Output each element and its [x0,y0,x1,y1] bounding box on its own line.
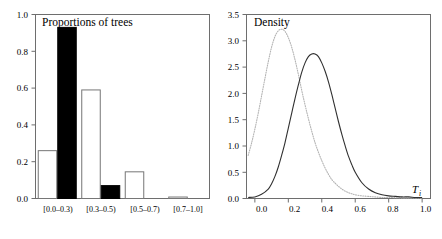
density-xtick-0-0: 0.0 [256,204,268,214]
bar-group-2 [82,90,120,199]
density-plot-frame [247,15,431,199]
bar-group-3 [125,172,144,199]
density-curve-solid [248,54,422,198]
bar-ytick-0-0: 0.0 [17,194,29,204]
bar-open-4 [169,197,188,198]
bar-chart-svg: 1.0 0.8 0.6 0.4 0.2 0.0 [0,0,221,239]
density-xtick-1-0: 1.0 [420,204,432,214]
bar-ytick-0-2: 0.2 [17,157,28,167]
bar-ytick-0-8: 0.8 [17,47,29,57]
bar-group-1 [38,27,76,198]
density-ytick-0-0: 0.0 [228,194,240,204]
bar-category-label-1: [0.0–0.3) [43,205,73,214]
density-ytick-3-5: 3.5 [228,10,240,20]
density-ytick-2-0: 2.0 [228,89,240,99]
bar-y-axis-ticks [32,15,36,199]
density-xtick-0-8: 0.8 [387,204,399,214]
density-chart-svg: 3.5 3.0 2.5 2.0 1.5 1.0 0.5 0.0 0.0 0.2 … [221,0,442,239]
density-xtick-0-4: 0.4 [322,204,334,214]
bar-ytick-0-4: 0.4 [17,120,29,130]
bar-category-label-2: [0.3–0.5) [86,205,116,214]
figure-container: 1.0 0.8 0.6 0.4 0.2 0.0 [0,0,442,239]
density-ytick-2-5: 2.5 [228,62,240,72]
bar-open-1 [38,151,57,199]
density-xtick-0-2: 0.2 [289,204,300,214]
bar-category-labels: [0.0–0.3) [0.3–0.5) [0.5–0.7) [0.7–1.0] [43,205,203,214]
density-x-axis-ticks [255,199,422,203]
density-chart-title: Density [254,16,290,29]
bar-category-label-3: [0.5–0.7) [130,205,160,214]
bar-group-4 [169,197,188,198]
bar-ytick-0-6: 0.6 [17,83,29,93]
density-axis-label-sub-i: i [419,189,421,198]
bar-ytick-1-0: 1.0 [17,10,29,20]
density-curve-dotted [248,29,422,198]
bar-chart-title: Proportions of trees [42,16,133,29]
density-y-axis-labels: 3.5 3.0 2.5 2.0 1.5 1.0 0.5 0.0 [228,10,240,204]
bar-filled-1 [58,27,77,198]
bar-y-axis-labels: 1.0 0.8 0.6 0.4 0.2 0.0 [17,10,29,204]
density-ytick-1-5: 1.5 [228,115,240,125]
density-axis-label-T: T [412,183,419,195]
density-ytick-3-0: 3.0 [228,36,240,46]
density-xtick-0-6: 0.6 [354,204,366,214]
density-x-axis-labels: 0.0 0.2 0.4 0.6 0.8 1.0 [256,204,432,214]
bar-open-3 [125,172,144,199]
density-y-axis-ticks [243,15,247,199]
density-ytick-1-0: 1.0 [228,141,240,151]
density-chart-panel: 3.5 3.0 2.5 2.0 1.5 1.0 0.5 0.0 0.0 0.2 … [221,0,442,239]
density-ytick-0-5: 0.5 [228,168,240,178]
bar-open-2 [82,90,101,199]
bar-category-label-4: [0.7–1.0] [173,205,203,214]
bar-filled-2 [101,186,120,199]
bar-chart-panel: 1.0 0.8 0.6 0.4 0.2 0.0 [0,0,221,239]
